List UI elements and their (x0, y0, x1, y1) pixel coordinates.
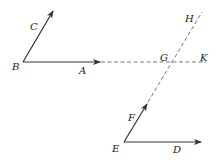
label-E: E (111, 143, 120, 154)
label-B: B (11, 61, 19, 72)
ray-EF (124, 104, 147, 142)
label-K: K (199, 52, 208, 63)
ray-BC (23, 11, 53, 62)
diagram-canvas: C B A H G K F E D (0, 0, 217, 164)
label-G: G (160, 52, 168, 63)
label-D: D (172, 144, 181, 155)
label-H: H (184, 13, 194, 24)
label-C: C (30, 21, 38, 32)
label-F: F (127, 112, 136, 123)
dashed-line-FH (148, 12, 202, 102)
label-A: A (78, 65, 86, 76)
